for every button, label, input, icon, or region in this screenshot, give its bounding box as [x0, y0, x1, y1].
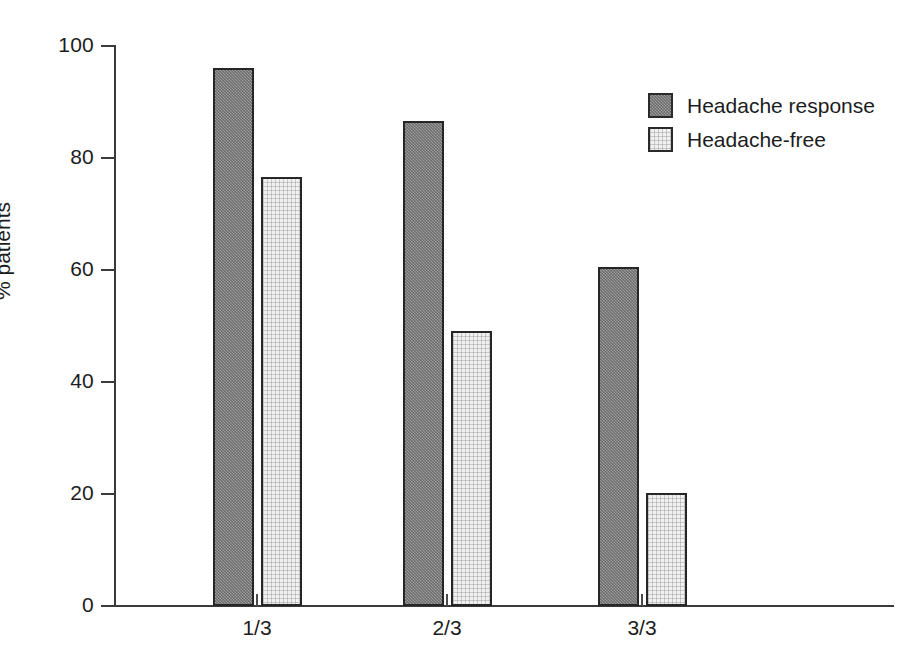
- y-tick-40: [101, 381, 114, 383]
- bar-headache-free-2-3[interactable]: [451, 331, 492, 606]
- y-tick-0: [101, 605, 114, 607]
- bar-headache-free-1-3[interactable]: [261, 177, 302, 606]
- y-tick-label-100: 100: [4, 34, 94, 55]
- y-tick-label-80: 80: [4, 146, 94, 167]
- y-tick-80: [101, 157, 114, 159]
- legend-item-headache-free[interactable]: Headache-free: [648, 122, 875, 156]
- y-tick-label-20-wrap: 20: [0, 482, 94, 503]
- bar-headache-response-3-3[interactable]: [598, 267, 639, 606]
- y-tick-label-60: 60: [4, 258, 94, 279]
- legend-item-headache-response[interactable]: Headache response: [648, 88, 875, 122]
- y-tick-20: [101, 493, 114, 495]
- y-tick-label-60-wrap: 60: [0, 258, 94, 279]
- x-axis-label-2: 2/3: [387, 616, 507, 640]
- y-tick-label-80-wrap: 80: [0, 146, 94, 167]
- y-tick-label-100-wrap: 100: [0, 34, 94, 55]
- y-tick-100: [101, 45, 114, 47]
- y-tick-label-20: 20: [4, 482, 94, 503]
- bar-headache-response-1-3[interactable]: [213, 68, 254, 606]
- y-tick-label-0: 0: [4, 594, 94, 615]
- y-tick-60: [101, 269, 114, 271]
- legend-label-headache-response: Headache response: [687, 95, 875, 116]
- bar-chart: % patients 100 80 60 40 20 0 1/3 2/3 3/3: [0, 0, 907, 668]
- y-tick-label-40: 40: [4, 370, 94, 391]
- legend-label-headache-free: Headache-free: [687, 129, 826, 150]
- legend-swatch-light-icon: [648, 127, 673, 152]
- y-tick-label-40-wrap: 40: [0, 370, 94, 391]
- bar-headache-free-3-3[interactable]: [646, 493, 687, 606]
- bar-headache-response-2-3[interactable]: [403, 121, 444, 606]
- legend-swatch-dark-icon: [648, 93, 673, 118]
- x-axis-label-3: 3/3: [582, 616, 702, 640]
- y-axis-title: % patients: [0, 202, 13, 300]
- legend: Headache response Headache-free: [648, 88, 875, 156]
- x-axis-label-1: 1/3: [197, 616, 317, 640]
- y-tick-label-0-wrap: 0: [0, 594, 94, 615]
